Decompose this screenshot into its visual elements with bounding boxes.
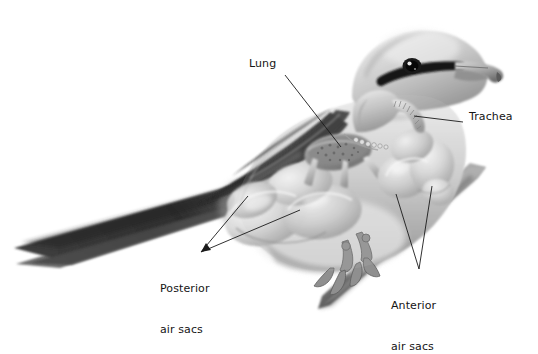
beak <box>454 61 503 82</box>
label-anterior-air-sacs: Anterior air sacs <box>391 272 436 354</box>
label-anterior-line1: Anterior <box>391 299 436 313</box>
label-posterior-air-sacs: Posterior air sacs <box>160 255 210 354</box>
body-translucency <box>236 95 466 271</box>
label-anterior-line2: air sacs <box>391 340 436 354</box>
label-posterior-line1: Posterior <box>160 282 210 296</box>
label-trachea: Trachea <box>469 110 513 123</box>
label-posterior-line2: air sacs <box>160 323 210 337</box>
label-lung: Lung <box>249 57 276 70</box>
arrowhead <box>201 243 211 252</box>
